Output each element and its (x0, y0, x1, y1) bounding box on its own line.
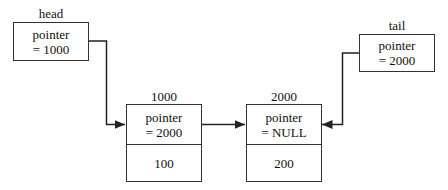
node1-pointer-value: = 2000 (146, 125, 183, 140)
node2-address: 2000 (246, 90, 322, 104)
head-box: pointer = 1000 (13, 22, 89, 61)
tail-label: tail (359, 19, 435, 33)
head-pointer-value: = 1000 (33, 42, 70, 57)
node2-pointer-label: pointer (266, 110, 303, 125)
node1-data-value: 100 (154, 156, 174, 171)
tail-pointer-value: = 2000 (379, 53, 416, 68)
node2-pointer-value: = NULL (261, 125, 306, 140)
tail-to-node2-arrow (322, 53, 359, 125)
node1-pointer-label: pointer (146, 110, 183, 125)
head-label: head (13, 7, 89, 21)
tail-pointer-label: pointer (379, 38, 416, 53)
tail-box: pointer = 2000 (359, 34, 435, 72)
node1-address: 1000 (126, 90, 202, 104)
node2-data-value: 200 (274, 156, 294, 171)
head-to-node1-arrow (89, 41, 125, 125)
head-pointer-label: pointer (33, 27, 70, 42)
node1-box: pointer = 2000 100 (126, 104, 202, 182)
node2-box: pointer = NULL 200 (246, 104, 322, 182)
